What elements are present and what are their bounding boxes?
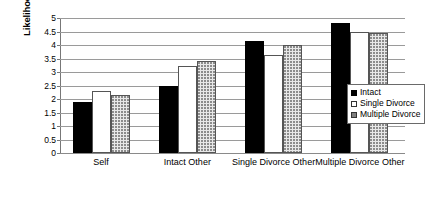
- y-axis-tick-mark: [57, 153, 60, 154]
- y-axis-tick-mark: [57, 140, 60, 141]
- bar: [178, 66, 197, 153]
- bar: [111, 95, 130, 153]
- y-axis-tick-mark: [57, 59, 60, 60]
- legend-item: Intact: [351, 87, 420, 98]
- bar: [197, 61, 216, 153]
- y-axis-tick-label: 4: [34, 41, 56, 50]
- y-axis-tick-label: 1.5: [34, 109, 56, 118]
- bar-group: [73, 18, 130, 153]
- y-axis-tick-mark: [57, 126, 60, 127]
- y-axis-tick-label: 3.5: [34, 55, 56, 64]
- chart-legend: IntactSingle DivorceMultiple Divorce: [347, 84, 425, 124]
- x-axis-category-labels: SelfIntact OtherSingle Divorce OtherMult…: [60, 157, 405, 191]
- y-axis-tick-label: 2.5: [34, 82, 56, 91]
- bar: [245, 41, 264, 153]
- y-axis-tick-label: 4.5: [34, 28, 56, 37]
- y-axis-tick-mark: [57, 99, 60, 100]
- y-axis-tick-label: 2: [34, 95, 56, 104]
- bar: [92, 91, 111, 153]
- legend-item: Single Divorce: [351, 98, 420, 109]
- y-axis-tick-label: 3: [34, 68, 56, 77]
- y-axis-tick-label: 0.5: [34, 136, 56, 145]
- bar-group: [245, 18, 302, 153]
- y-axis-tick-label: 1: [34, 122, 56, 131]
- y-axis-tick-label: 5: [34, 14, 56, 23]
- legend-item: Multiple Divorce: [351, 109, 420, 120]
- bar-chart-figure: Likelihood of Getting a Divorce 00.511.5…: [0, 0, 446, 205]
- legend-swatch-icon: [351, 101, 357, 107]
- y-axis-tick-mark: [57, 45, 60, 46]
- y-axis-tick-mark: [57, 72, 60, 73]
- bar: [283, 45, 302, 153]
- y-axis-tick-mark: [57, 86, 60, 87]
- bar: [73, 102, 92, 153]
- bar-group: [159, 18, 216, 153]
- y-axis-tick-mark: [57, 18, 60, 19]
- y-axis-tick-mark: [57, 32, 60, 33]
- legend-item-label: Multiple Divorce: [360, 110, 420, 119]
- gridline: [60, 153, 405, 154]
- y-axis-tick-labels: 00.511.522.533.544.55: [32, 18, 56, 153]
- bar: [264, 55, 283, 153]
- legend-item-label: Single Divorce: [360, 99, 415, 108]
- x-axis-category-label: Multiple Divorce Other: [309, 157, 411, 168]
- bar: [159, 86, 178, 154]
- legend-swatch-icon: [351, 112, 357, 118]
- legend-swatch-icon: [351, 90, 357, 96]
- y-axis-tick-mark: [57, 113, 60, 114]
- legend-item-label: Intact: [360, 88, 381, 97]
